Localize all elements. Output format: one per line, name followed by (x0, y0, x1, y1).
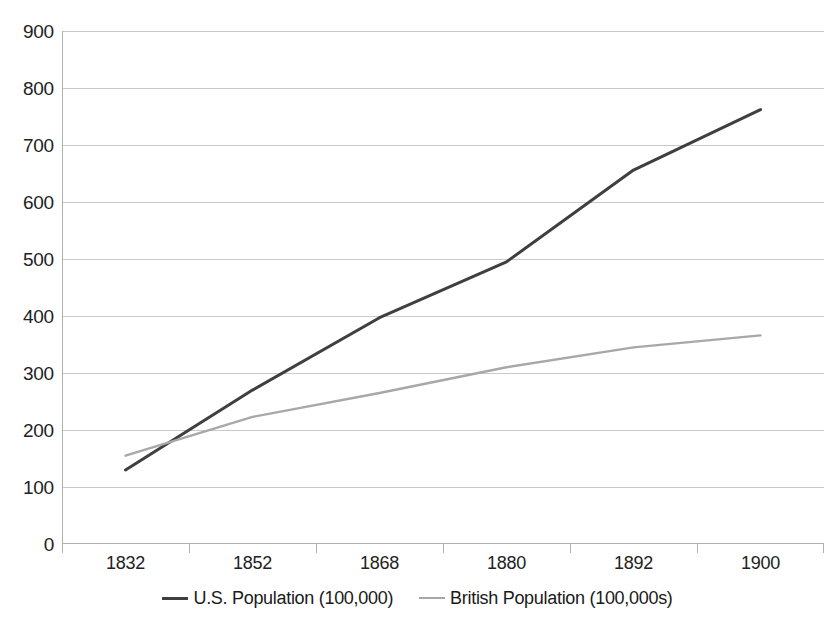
x-axis-tick-label: 1892 (614, 552, 653, 574)
y-axis-tick-label: 200 (0, 421, 54, 440)
y-axis-tick-labels: 9008007006005004003002001000 (0, 0, 54, 626)
x-axis-tick-label: 1868 (360, 552, 399, 574)
y-axis-tick-label: 800 (0, 79, 54, 98)
x-axis-tick-label: 1852 (233, 552, 272, 574)
series-line (126, 335, 761, 455)
y-axis-tick-label: 100 (0, 478, 54, 497)
chart-legend: U.S. Population (100,000)British Populat… (0, 588, 835, 608)
series-line (126, 110, 761, 470)
data-series (62, 31, 824, 544)
y-axis-tick-label: 600 (0, 193, 54, 212)
line-chart: 9008007006005004003002001000 18321852186… (0, 0, 835, 626)
x-axis-tick-label: 1880 (487, 552, 526, 574)
plot-area (62, 31, 824, 544)
x-axis-tick-label: 1832 (106, 552, 145, 574)
legend-label: U.S. Population (100,000) (193, 588, 393, 608)
legend-label: British Population (100,000s) (450, 588, 672, 608)
x-axis-tick-labels: 183218521868188018921900 (62, 552, 824, 580)
legend-item[interactable]: British Population (100,000s) (419, 588, 672, 608)
y-axis-tick-label: 500 (0, 250, 54, 269)
y-axis-tick-label: 0 (0, 535, 54, 554)
x-axis-tick-label: 1900 (741, 552, 780, 574)
y-axis-tick-label: 400 (0, 307, 54, 326)
y-axis-tick-label: 900 (0, 22, 54, 41)
y-axis-tick-label: 700 (0, 136, 54, 155)
y-axis-tick-label: 300 (0, 364, 54, 383)
legend-line-swatch-icon (162, 593, 188, 603)
legend-item[interactable]: U.S. Population (100,000) (162, 588, 393, 608)
legend-line-swatch-icon (419, 593, 445, 603)
